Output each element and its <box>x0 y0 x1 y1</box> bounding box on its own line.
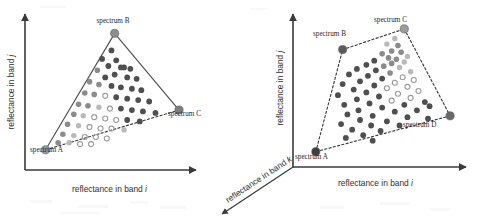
data-point <box>384 41 389 46</box>
data-point <box>351 87 357 93</box>
data-point <box>109 83 115 89</box>
data-point <box>102 74 108 80</box>
spectral-simplex-figure: reflectance in band i reflectance in ban… <box>0 0 477 220</box>
data-point <box>405 54 410 59</box>
data-point <box>402 59 407 64</box>
data-point <box>340 81 346 87</box>
figure-canvas: reflectance in band i reflectance in ban… <box>0 0 477 220</box>
left-vertex-label-a: spectrum A <box>30 146 64 154</box>
data-point <box>134 76 140 82</box>
data-point <box>381 63 387 69</box>
data-point <box>401 102 407 108</box>
data-point <box>118 106 124 112</box>
left-y-axis-label-prefix: reflectance in band <box>6 56 16 129</box>
data-point <box>379 51 385 57</box>
data-point <box>392 36 397 41</box>
data-point <box>427 103 433 109</box>
data-point <box>55 140 61 146</box>
left-vertex-label-b: spectrum B <box>97 17 130 25</box>
data-point <box>370 138 376 144</box>
data-point <box>354 66 360 72</box>
right-vertex-label-a: spectrum A <box>295 153 329 161</box>
data-point <box>422 99 428 105</box>
data-point <box>135 97 141 103</box>
data-point <box>408 69 413 74</box>
data-point <box>384 118 390 124</box>
data-point <box>146 99 152 105</box>
data-point <box>371 83 377 89</box>
data-point <box>349 127 355 133</box>
left-vertex-label-c: spectrum C <box>168 110 201 118</box>
endmember-vertex <box>446 112 454 120</box>
data-point <box>127 66 133 72</box>
data-point <box>137 119 143 125</box>
data-point <box>379 105 385 111</box>
data-point <box>138 87 144 93</box>
right-x-axis-label-prefix: reflectance in band <box>338 178 411 188</box>
data-point <box>76 123 81 128</box>
data-point <box>71 112 77 118</box>
data-point <box>113 57 119 63</box>
data-point <box>112 72 118 78</box>
endmember-vertex <box>111 29 119 37</box>
data-point <box>60 131 66 137</box>
data-point <box>392 109 398 115</box>
data-point <box>389 61 395 67</box>
data-point <box>345 112 351 118</box>
data-point <box>370 113 376 119</box>
data-point <box>395 43 401 49</box>
data-point <box>121 127 126 132</box>
data-point <box>124 74 130 80</box>
data-point <box>398 50 404 56</box>
data-point <box>371 58 377 64</box>
data-point <box>105 63 111 69</box>
data-point <box>129 86 135 92</box>
data-point <box>96 82 102 88</box>
data-point <box>363 89 369 95</box>
right-y-axis-label: reflectance in band j <box>275 49 285 125</box>
data-point <box>368 123 374 129</box>
data-point <box>96 105 101 110</box>
data-point <box>405 114 411 120</box>
left-x-axis-label: reflectance in band i <box>72 184 148 194</box>
data-point <box>367 101 373 107</box>
data-point <box>387 70 393 76</box>
data-point <box>81 113 86 118</box>
data-point <box>343 135 349 141</box>
data-point <box>360 132 366 138</box>
data-point <box>95 67 101 73</box>
data-point <box>99 56 105 62</box>
data-point <box>124 96 130 102</box>
data-point <box>357 117 363 123</box>
data-point <box>121 65 127 71</box>
data-point <box>378 128 384 134</box>
right-x-axis-label: reflectance in band i <box>338 178 414 188</box>
data-point <box>397 123 403 129</box>
data-point <box>338 121 344 127</box>
data-point <box>82 90 88 96</box>
data-point <box>335 92 341 98</box>
data-point <box>124 117 130 123</box>
data-point <box>140 109 146 115</box>
data-point <box>389 48 395 54</box>
data-point <box>376 94 382 100</box>
data-point <box>113 94 119 100</box>
data-point <box>397 65 402 70</box>
data-point <box>91 92 97 98</box>
data-point <box>386 55 392 61</box>
data-point <box>71 133 76 138</box>
endmember-vertex <box>400 25 408 33</box>
right-vertex-label-c: spectrum C <box>374 16 407 24</box>
data-point <box>346 72 352 78</box>
data-point <box>357 78 363 84</box>
data-point <box>118 84 124 90</box>
left-x-axis-label-prefix: reflectance in band <box>72 184 145 194</box>
data-point <box>363 62 369 68</box>
data-point <box>356 107 362 113</box>
left-y-axis-label: reflectance in band j <box>6 53 16 129</box>
right-vertex-label-b: spectrum B <box>313 30 346 38</box>
data-point <box>379 76 385 82</box>
data-point <box>87 79 93 85</box>
data-point <box>365 73 371 79</box>
right-y-axis-label-prefix: reflectance in band <box>275 52 285 125</box>
